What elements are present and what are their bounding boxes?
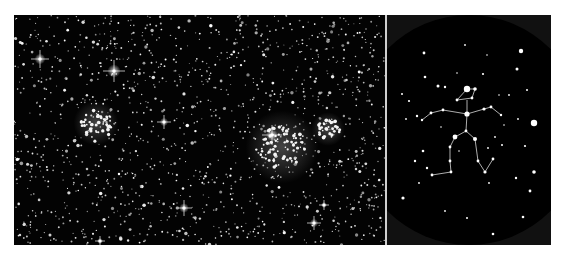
constellation-star <box>464 86 470 92</box>
constellation-star <box>473 137 477 141</box>
field-star <box>416 115 418 117</box>
field-star <box>423 52 426 55</box>
field-star <box>458 150 460 152</box>
field-star <box>466 217 468 219</box>
constellation-star <box>473 87 477 91</box>
field-star <box>501 144 503 146</box>
field-star <box>437 85 440 88</box>
field-star <box>532 170 536 174</box>
constellation-star <box>431 174 434 177</box>
field-star <box>488 182 490 184</box>
field-star <box>515 177 517 179</box>
field-star <box>440 126 442 128</box>
field-star <box>487 147 489 149</box>
figure <box>14 15 551 245</box>
field-star <box>444 86 446 88</box>
field-star <box>444 210 446 212</box>
constellation-star <box>500 114 502 116</box>
field-star <box>424 76 427 79</box>
constellation-chart <box>387 15 551 245</box>
field-star <box>414 160 416 162</box>
constellation-star <box>464 111 469 116</box>
constellation-star <box>449 146 452 149</box>
bright-star <box>176 200 192 216</box>
constellation-star <box>477 160 480 163</box>
constellation-star <box>492 158 495 161</box>
sky-chart-canvas <box>387 15 551 245</box>
bright-star <box>307 216 321 230</box>
field-star <box>517 118 519 120</box>
constellation-star <box>450 171 453 174</box>
constellation-star <box>482 107 485 110</box>
constellation-star <box>456 99 459 102</box>
constellation-star <box>430 112 433 115</box>
field-star <box>456 72 458 74</box>
field-star <box>531 120 537 126</box>
bright-star <box>95 236 105 245</box>
bright-star <box>157 115 171 129</box>
field-star <box>492 233 495 236</box>
field-star <box>508 94 510 96</box>
field-star <box>498 94 500 96</box>
constellation-star <box>449 160 452 163</box>
constellation-star <box>465 130 468 133</box>
field-star <box>401 196 404 199</box>
field-star <box>494 136 496 138</box>
field-star <box>408 100 410 102</box>
constellation-star <box>453 135 458 140</box>
field-star <box>464 44 466 46</box>
field-star <box>526 89 528 91</box>
star-field-canvas <box>14 15 385 245</box>
star-cluster <box>246 111 319 184</box>
field-star <box>401 93 403 95</box>
field-star <box>405 118 407 120</box>
star-field-photo <box>14 15 385 245</box>
constellation-star <box>483 170 486 173</box>
bright-star <box>31 50 49 68</box>
field-star <box>529 190 532 193</box>
field-star <box>426 167 428 169</box>
field-star <box>418 182 420 184</box>
field-star <box>522 216 525 219</box>
field-star <box>482 73 484 75</box>
field-star <box>503 124 505 126</box>
field-star <box>524 145 526 147</box>
field-star <box>486 54 488 56</box>
constellation-star <box>442 109 445 112</box>
field-star <box>422 150 425 153</box>
constellation-star <box>490 106 493 109</box>
constellation-star <box>421 119 423 121</box>
sky-circle <box>387 15 551 245</box>
bright-star <box>319 200 329 210</box>
constellation-star <box>471 97 474 100</box>
field-star <box>519 49 523 53</box>
field-star <box>516 68 519 71</box>
bright-star <box>103 60 125 82</box>
